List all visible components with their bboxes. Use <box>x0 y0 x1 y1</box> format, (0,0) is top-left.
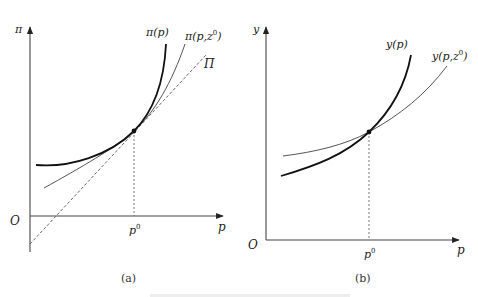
y-axis-label: π <box>14 23 23 36</box>
curve-y-p-z0 <box>283 66 447 156</box>
panel-b: y p O p0 y(p) y(p,z0) (b) <box>248 23 468 285</box>
label-Pi: Π <box>203 57 215 71</box>
tick-p0: p0 <box>129 223 141 237</box>
label-pi-p: π(p) <box>145 26 169 39</box>
caption-b: (b) <box>355 272 371 285</box>
x-axis-label: p <box>457 243 465 257</box>
label-pi-p-z0: π(p,z0) <box>184 29 222 43</box>
origin-label: O <box>248 238 258 252</box>
label-y-p: y(p) <box>385 38 408 51</box>
tick-p0: p0 <box>364 247 376 261</box>
label-y-p-z0: y(p,z0) <box>431 49 468 63</box>
intersection-point <box>367 130 372 135</box>
tangency-point <box>132 129 137 134</box>
y-axis-label: y <box>252 23 260 36</box>
figure-canvas: π p O p0 π(p) π(p,z0) Π (a) y p O p0 y(p… <box>0 0 478 297</box>
curve-y-p <box>281 55 411 176</box>
panel-a: π p O p0 π(p) π(p,z0) Π (a) <box>10 23 226 285</box>
x-axis-label: p <box>218 220 226 234</box>
curve-pi-p <box>36 44 166 165</box>
origin-label: O <box>10 214 20 228</box>
caption-a: (a) <box>121 272 136 285</box>
